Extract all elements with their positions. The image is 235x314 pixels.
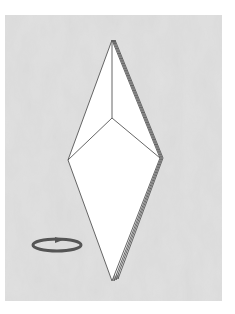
- origami-diagram: [0, 0, 235, 314]
